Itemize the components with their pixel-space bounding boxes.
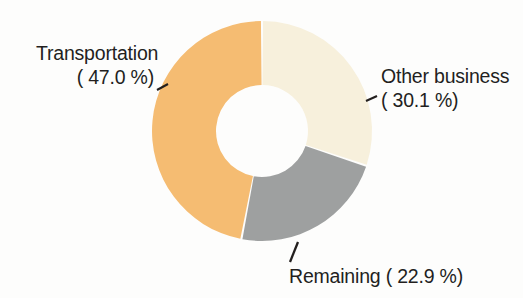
slice-label-other-business: Other business ( 30.1 %) [381,64,521,112]
donut-chart-figure: Transportation ( 47.0 %) Other business … [0,0,523,298]
donut-segments [152,21,372,241]
slice-label-transportation-name: Transportation [36,41,154,65]
donut-segment-transportation [152,21,262,239]
slice-label-other-business-name: Other business [381,64,521,88]
donut-segment-other-business [262,21,372,165]
slice-label-remaining: Remaining ( 22.9 %) [289,264,489,288]
donut-segment-remaining [242,146,366,241]
leader-line-other-business [366,96,377,101]
slice-label-remaining-name-value: Remaining ( 22.9 %) [289,264,489,288]
slice-label-transportation-value: ( 47.0 %) [36,65,154,89]
slice-label-other-business-value: ( 30.1 %) [381,88,521,112]
slice-label-transportation: Transportation ( 47.0 %) [36,41,154,89]
leader-line-remaining [290,242,298,262]
